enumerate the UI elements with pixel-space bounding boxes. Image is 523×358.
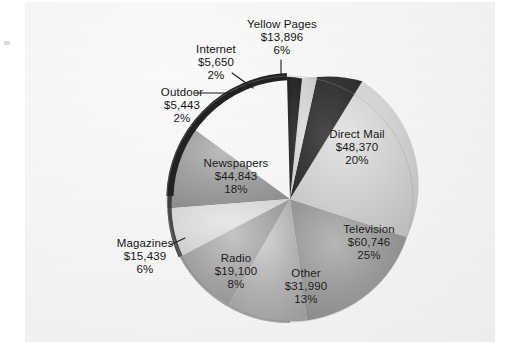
label-percent: 2% (170, 69, 262, 82)
label-name: Newspapers (182, 157, 290, 170)
label-name: Other (264, 267, 348, 280)
label-value: $15,439 (96, 250, 194, 263)
slice-label-outdoor: Outdoor $5,443 2% (137, 86, 227, 126)
label-name: Yellow Pages (218, 18, 346, 31)
slice-label-television: Television $60,746 25% (322, 223, 416, 263)
label-value: $31,990 (264, 280, 348, 293)
slice-label-direct-mail: Direct Mail $48,370 20% (309, 128, 405, 168)
slice-label-internet: Internet $5,650 2% (170, 43, 262, 83)
label-value: $48,370 (309, 141, 405, 154)
label-name: Direct Mail (309, 128, 405, 141)
label-percent: 25% (322, 249, 416, 262)
label-value: $44,843 (182, 170, 290, 183)
label-percent: 20% (309, 154, 405, 167)
figure-canvas: Yellow Pages $13,896 6% Internet $5,650 … (0, 0, 523, 358)
label-percent: 18% (182, 183, 290, 196)
slice-label-newspapers: Newspapers $44,843 18% (182, 157, 290, 197)
label-value: $5,443 (137, 99, 227, 112)
label-name: Outdoor (137, 86, 227, 99)
label-percent: 13% (264, 293, 348, 306)
slice-label-other: Other $31,990 13% (264, 267, 348, 307)
label-percent: 6% (96, 263, 194, 276)
label-value: $5,650 (170, 56, 262, 69)
label-name: Radio (196, 252, 276, 265)
label-percent: 2% (137, 112, 227, 125)
label-name: Magazines (96, 237, 194, 250)
label-name: Television (322, 223, 416, 236)
label-name: Internet (170, 43, 262, 56)
slice-label-magazines: Magazines $15,439 6% (96, 237, 194, 277)
label-value: $60,746 (322, 236, 416, 249)
